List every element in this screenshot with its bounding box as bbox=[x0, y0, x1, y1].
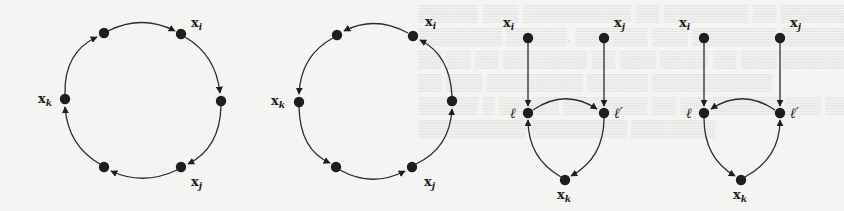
edge bbox=[65, 107, 100, 164]
label-l-prime: ℓ′ bbox=[790, 105, 800, 121]
edge bbox=[711, 99, 775, 110]
edge bbox=[528, 120, 561, 177]
edge bbox=[188, 106, 221, 164]
node bbox=[447, 96, 457, 106]
graph-cycle-counterclockwise: xi xj xk bbox=[271, 14, 457, 191]
node bbox=[99, 28, 109, 38]
edge bbox=[108, 23, 175, 32]
label-xk: xk bbox=[733, 187, 747, 204]
node-l bbox=[699, 108, 709, 118]
node-xj bbox=[775, 33, 785, 43]
label-xj: xj bbox=[614, 15, 626, 32]
node-xi bbox=[176, 29, 186, 39]
node-xi bbox=[699, 33, 709, 43]
edge bbox=[185, 37, 220, 93]
label-xk: xk bbox=[38, 91, 52, 108]
edge bbox=[299, 107, 330, 163]
edge bbox=[344, 23, 408, 33]
edge bbox=[416, 109, 452, 164]
label-xk: xk bbox=[271, 93, 285, 110]
label-xi: xi bbox=[503, 15, 515, 32]
label-xi: xi bbox=[679, 15, 691, 32]
node-xi bbox=[408, 31, 418, 41]
node-xi bbox=[523, 33, 533, 43]
node-xk bbox=[294, 97, 304, 107]
edge bbox=[533, 99, 597, 110]
node bbox=[216, 96, 226, 106]
edge bbox=[704, 118, 735, 176]
label-xk: xk bbox=[557, 187, 571, 204]
label-xj: xj bbox=[424, 174, 436, 191]
node-l-prime bbox=[599, 108, 609, 118]
node-xj bbox=[407, 162, 417, 172]
label-xj: xj bbox=[790, 15, 802, 32]
figure: xi xj xk xi xj xk bbox=[0, 0, 844, 211]
label-l-prime: ℓ′ bbox=[614, 105, 624, 121]
graph-gadget-a: xi xj ℓ ℓ′ xk bbox=[503, 15, 626, 204]
label-l: ℓ bbox=[510, 105, 516, 121]
graph-gadget-b: xi xj ℓ ℓ′ xk bbox=[679, 15, 802, 204]
edge bbox=[745, 120, 780, 177]
graph-cycle-clockwise: xi xj xk bbox=[38, 15, 226, 191]
node-l bbox=[523, 108, 533, 118]
label-xj: xj bbox=[191, 174, 203, 191]
label-xi: xi bbox=[191, 15, 203, 32]
node-xk bbox=[736, 175, 746, 185]
node-l-prime bbox=[775, 108, 785, 118]
edge bbox=[111, 170, 177, 178]
edge bbox=[571, 118, 604, 176]
label-l: ℓ bbox=[686, 105, 692, 121]
edge bbox=[299, 38, 333, 94]
node bbox=[99, 162, 109, 172]
label-xi: xi bbox=[425, 14, 437, 31]
node-xk bbox=[560, 175, 570, 185]
node-xj bbox=[176, 162, 186, 172]
edge bbox=[340, 170, 405, 179]
node-xk bbox=[60, 94, 70, 104]
node bbox=[331, 162, 341, 172]
node-xj bbox=[599, 33, 609, 43]
edge bbox=[65, 37, 97, 94]
edge bbox=[420, 40, 452, 96]
node bbox=[332, 30, 342, 40]
